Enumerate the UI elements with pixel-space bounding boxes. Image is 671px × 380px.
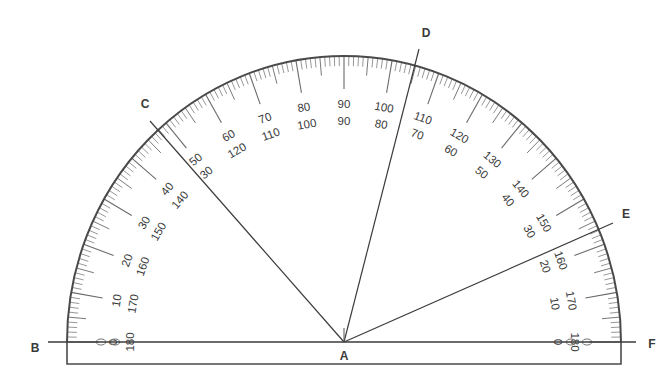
protractor-canvas: 0180101702016030150401405030601207011080…: [0, 0, 671, 380]
point-label-f: F: [648, 337, 655, 351]
degree-tick: [138, 151, 145, 158]
degree-tick: [214, 89, 219, 98]
degree-tick: [201, 97, 206, 106]
degree-tick: [74, 278, 83, 280]
inner-scale-label: 10: [548, 296, 562, 311]
degree-tick: [605, 283, 614, 285]
degree-tick: [546, 154, 553, 161]
degree-tick: [166, 123, 186, 148]
degree-tick: [571, 190, 579, 195]
degree-tick: [70, 302, 80, 303]
degree-tick: [404, 63, 406, 73]
degree-tick: [84, 244, 114, 255]
degree-tick: [566, 182, 574, 188]
degree-tick: [99, 208, 108, 213]
degree-tick: [310, 58, 311, 68]
degree-tick: [598, 254, 607, 257]
degree-tick: [448, 79, 452, 88]
degree-tick: [305, 59, 306, 69]
degree-tick: [552, 162, 560, 168]
degree-tick: [132, 158, 156, 179]
degree-tick: [428, 73, 439, 104]
degree-tick: [584, 217, 593, 221]
degree-tick: [231, 81, 235, 90]
degree-tick: [75, 273, 84, 275]
degree-tick: [223, 85, 227, 94]
outer-scale-label: 160: [552, 249, 570, 271]
degree-tick: [582, 212, 591, 217]
degree-tick: [604, 278, 613, 280]
degree-tick: [588, 226, 597, 230]
degree-tick: [120, 174, 128, 180]
degree-tick: [240, 77, 244, 86]
degree-tick: [89, 230, 98, 234]
inner-scale-label: 90: [338, 115, 351, 127]
degree-tick: [193, 102, 198, 110]
degree-tick: [301, 60, 303, 70]
degree-tick: [170, 120, 176, 128]
degree-tick: [578, 203, 586, 208]
degree-tick: [611, 327, 621, 328]
degree-tick: [594, 240, 603, 244]
point-label-e: E: [622, 207, 630, 221]
degree-tick: [602, 317, 620, 319]
degree-tick: [236, 79, 240, 88]
degree-tick: [573, 195, 581, 200]
degree-tick: [79, 258, 88, 261]
degree-tick: [594, 268, 611, 273]
inner-scale-label: 150: [148, 220, 168, 243]
degree-tick: [543, 151, 550, 158]
degree-tick: [609, 307, 619, 308]
degree-tick: [189, 105, 194, 113]
degree-tick: [358, 56, 359, 66]
inner-scale-label: 80: [374, 117, 389, 131]
degree-tick: [482, 97, 487, 106]
degree-tick: [97, 212, 106, 217]
degree-tick: [141, 147, 148, 154]
outer-scale-label: 70: [257, 110, 273, 126]
degree-tick: [465, 87, 469, 96]
degree-tick: [272, 66, 277, 84]
point-label-a: A: [340, 349, 349, 363]
degree-tick: [173, 117, 179, 125]
degree-tick: [505, 114, 511, 122]
degree-tick: [608, 297, 618, 299]
outer-scale-label: 40: [158, 180, 175, 198]
protractor-scale-labels: 0180101702016030150401405030601207011080…: [97, 98, 592, 352]
degree-tick: [296, 60, 302, 92]
inner-scale-label: 40: [499, 191, 516, 209]
inner-scale-label: 100: [296, 117, 317, 132]
degree-tick: [291, 61, 293, 71]
degree-tick: [418, 67, 421, 77]
degree-tick: [474, 92, 479, 101]
ray-ae: [344, 223, 613, 342]
degree-tick: [387, 60, 393, 92]
degree-tick: [123, 170, 131, 176]
degree-tick: [372, 58, 373, 68]
degree-tick: [81, 254, 90, 257]
degree-tick: [580, 208, 589, 213]
degree-tick: [411, 66, 416, 84]
degree-tick: [76, 268, 93, 273]
degree-tick: [574, 244, 604, 255]
ray-ad: [344, 49, 419, 342]
degree-tick: [268, 67, 271, 77]
degree-tick: [69, 312, 79, 313]
degree-tick: [254, 72, 257, 81]
degree-tick: [102, 203, 110, 208]
degree-tick: [73, 283, 82, 285]
degree-tick: [609, 302, 619, 303]
inner-scale-label: 110: [260, 125, 281, 143]
point-label-b: B: [31, 341, 40, 355]
outer-scale-label: 60: [220, 127, 237, 144]
point-label-d: D: [422, 26, 431, 40]
degree-tick: [152, 136, 159, 143]
outer-scale-label: 110: [412, 109, 433, 127]
outer-scale-label: 80: [297, 100, 312, 114]
degree-tick: [286, 62, 288, 72]
degree-tick: [519, 126, 525, 134]
degree-tick: [129, 162, 137, 168]
degree-tick: [135, 154, 142, 161]
ray-ac: [150, 121, 344, 342]
degree-tick: [440, 75, 443, 84]
